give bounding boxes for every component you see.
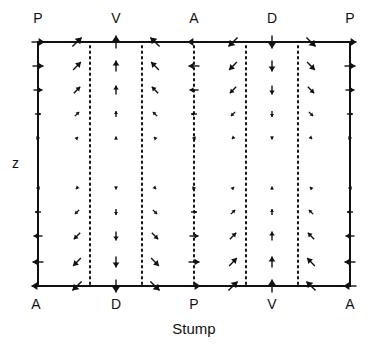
top-label-v: V <box>111 10 120 26</box>
arrow-icon <box>113 263 120 268</box>
arrow-icon <box>114 111 118 114</box>
arrow-icon <box>113 61 120 66</box>
arrow-icon <box>270 114 274 117</box>
arrow-icon <box>191 112 194 116</box>
arrow-icon <box>346 233 350 238</box>
figure-caption: Stump <box>172 320 215 337</box>
arrow-icon <box>231 187 235 191</box>
arrow-icon <box>114 187 118 190</box>
top-label-p-left: P <box>33 10 42 26</box>
bottom-label-d: D <box>111 296 121 312</box>
arrow-icon <box>310 187 314 191</box>
arrow-icon <box>112 287 120 293</box>
arrow-icon <box>112 36 120 42</box>
arrow-icon <box>39 63 44 70</box>
arrow-icon <box>38 87 42 92</box>
arrow-icon <box>113 236 118 240</box>
arrow-icon <box>114 212 118 215</box>
arrow-icon <box>351 63 356 70</box>
vector-field-diagram: P V A D P A D P V A z Stump <box>0 0 370 350</box>
arrow-icon <box>194 233 198 238</box>
arrow-icon <box>350 112 353 116</box>
arrow-icon <box>113 86 118 90</box>
arrow-icon <box>268 43 276 49</box>
arrow-icon <box>195 259 200 266</box>
bottom-label-v: V <box>267 296 276 312</box>
arrow-icon <box>38 112 41 116</box>
arrow-icon <box>195 282 201 290</box>
top-label-p-right: P <box>345 10 354 26</box>
top-label-d: D <box>267 10 277 26</box>
bottom-label-a-right: A <box>345 296 354 312</box>
arrow-icon <box>270 137 274 140</box>
arrow-icon <box>351 38 357 46</box>
arrow-icon <box>194 210 197 214</box>
arrow-icon <box>33 259 38 266</box>
arrow-icon <box>35 210 38 214</box>
axis-label-z: z <box>12 155 19 171</box>
arrow-icon <box>269 67 276 72</box>
arrow-icon <box>350 87 354 92</box>
arrow-icon <box>114 137 118 140</box>
arrow-icon <box>153 186 157 190</box>
arrow-icon <box>32 282 38 290</box>
arrow-icon <box>345 259 350 266</box>
arrow-icon <box>268 280 276 286</box>
arrow-icon <box>188 38 194 46</box>
arrow-icon <box>75 137 79 141</box>
bottom-label-p: P <box>189 296 198 312</box>
vector-field-canvas <box>0 0 370 350</box>
arrow-icon <box>269 90 274 94</box>
bottom-label-a-left: A <box>31 296 40 312</box>
top-label-a: A <box>189 10 198 26</box>
arrow-icon <box>34 233 38 238</box>
arrow-icon <box>232 136 236 140</box>
arrow-icon <box>269 232 274 236</box>
arrow-icon <box>309 136 313 140</box>
arrow-icon <box>344 282 350 290</box>
arrow-icon <box>39 38 45 46</box>
arrow-icon <box>154 137 158 141</box>
arrow-icon <box>270 187 274 190</box>
arrow-icon <box>190 87 194 92</box>
arrow-icon <box>347 210 350 214</box>
arrow-icon <box>270 209 274 212</box>
arrow-icon <box>269 257 276 262</box>
arrow-icon <box>189 63 194 70</box>
arrow-icon <box>76 186 80 190</box>
